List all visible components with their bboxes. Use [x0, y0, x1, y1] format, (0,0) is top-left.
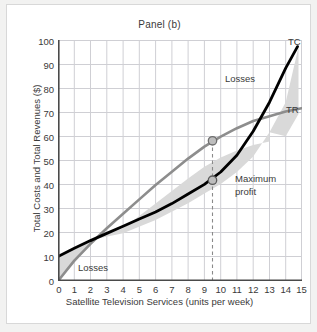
plot-area: 0 10 20 30 40 50 60 70 80 90 100 0 1 2 3… [58, 40, 302, 281]
y-axis-label: Total Costs and Total Revenues ($) [31, 59, 42, 259]
x-tick-1: 1 [72, 284, 77, 295]
x-axis-label: Satellite Television Services (units per… [7, 296, 312, 307]
x-tick-13: 13 [264, 284, 275, 295]
x-tick-2: 2 [88, 284, 93, 295]
max-profit-label-line2: profit [235, 186, 256, 197]
grid-lines [58, 40, 302, 281]
y-tick-20: 20 [43, 227, 54, 238]
y-tick-60: 60 [43, 131, 54, 142]
chart-card: Panel (b) Total Costs and Total Revenues… [6, 4, 311, 324]
x-tick-9: 9 [202, 284, 207, 295]
x-tick-12: 12 [248, 284, 259, 295]
marker-tc-max-profit [208, 176, 216, 184]
x-tick-8: 8 [185, 284, 190, 295]
y-tick-0: 0 [49, 276, 54, 287]
screenshot-frame: Panel (b) Total Costs and Total Revenues… [0, 0, 317, 332]
x-tick-14: 14 [280, 284, 291, 295]
x-tick-6: 6 [153, 284, 158, 295]
x-tick-11: 11 [232, 284, 242, 295]
y-tick-80: 80 [43, 83, 54, 94]
y-tick-100: 100 [38, 35, 54, 46]
losses-lower-label: Losses [78, 262, 108, 273]
tc-series-label: TC [288, 36, 301, 47]
chart-svg [58, 40, 302, 281]
losses-upper-label: Losses [225, 73, 255, 84]
tr-series-label: TR [286, 104, 299, 115]
y-tick-40: 40 [43, 179, 54, 190]
x-tick-10: 10 [215, 284, 226, 295]
y-tick-10: 10 [43, 251, 54, 262]
y-tick-90: 90 [43, 59, 54, 70]
chart-title: Panel (b) [7, 19, 312, 30]
x-tick-5: 5 [137, 284, 142, 295]
tc-curve [58, 47, 298, 257]
y-tick-30: 30 [43, 203, 54, 214]
x-tick-15: 15 [296, 284, 307, 295]
x-tick-4: 4 [120, 284, 125, 295]
max-profit-label-line1: Maximum [235, 173, 276, 184]
marker-tr-max-profit [208, 137, 216, 145]
x-tick-0: 0 [56, 284, 61, 295]
y-tick-70: 70 [43, 107, 54, 118]
x-tick-7: 7 [169, 284, 174, 295]
x-tick-3: 3 [104, 284, 109, 295]
y-tick-50: 50 [43, 155, 54, 166]
